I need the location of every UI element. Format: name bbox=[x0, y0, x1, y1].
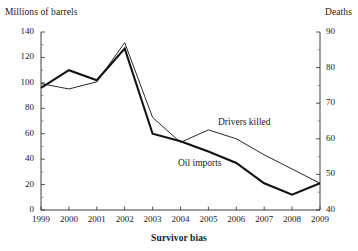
y-left-tick-label: 140 bbox=[8, 26, 34, 36]
y-left-tick-label: 100 bbox=[8, 77, 34, 87]
x-tick-label: 2000 bbox=[54, 214, 84, 224]
y-right-tick-label: 90 bbox=[326, 26, 352, 36]
y-left-tick-label: 120 bbox=[8, 51, 34, 61]
axis-lines bbox=[41, 32, 320, 210]
x-tick-label: 2007 bbox=[249, 214, 279, 224]
x-tick-label: 2008 bbox=[277, 214, 307, 224]
x-tick-label: 2002 bbox=[110, 214, 140, 224]
y-right-tick-label: 70 bbox=[326, 97, 352, 107]
y-right-tick-label: 60 bbox=[326, 133, 352, 143]
x-axis-ticks bbox=[41, 207, 320, 211]
x-tick-label: 2004 bbox=[166, 214, 196, 224]
y-right-tick-label: 40 bbox=[326, 204, 352, 214]
series-label-drivers-killed: Drivers killed bbox=[218, 117, 271, 127]
y-left-tick-label: 60 bbox=[8, 128, 34, 138]
x-tick-label: 2001 bbox=[82, 214, 112, 224]
x-tick-label: 2009 bbox=[305, 214, 335, 224]
x-tick-label: 1999 bbox=[26, 214, 56, 224]
y-left-tick-label: 0 bbox=[8, 204, 34, 214]
y-right-tick-label: 80 bbox=[326, 62, 352, 72]
y-left-tick-label: 80 bbox=[8, 102, 34, 112]
x-tick-label: 2006 bbox=[221, 214, 251, 224]
y-axis-left-ticks bbox=[41, 32, 45, 210]
series-label-oil-imports: Oil imports bbox=[178, 158, 222, 168]
series-line-oil-imports bbox=[41, 49, 320, 195]
line-chart: Millions of barrels Deaths Survivor bias… bbox=[0, 0, 358, 251]
x-tick-label: 2003 bbox=[138, 214, 168, 224]
y-right-tick-label: 50 bbox=[326, 168, 352, 178]
x-tick-label: 2005 bbox=[193, 214, 223, 224]
y-left-tick-label: 20 bbox=[8, 179, 34, 189]
y-left-tick-label: 40 bbox=[8, 153, 34, 163]
